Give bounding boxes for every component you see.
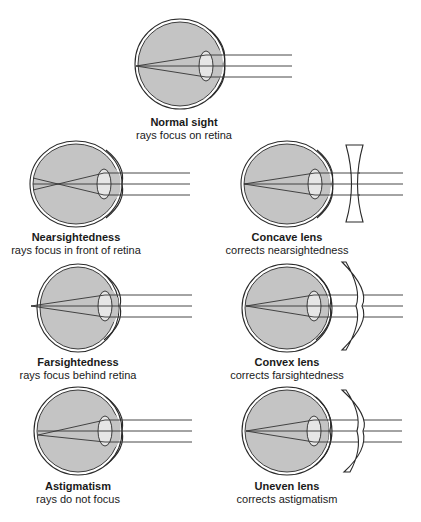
caption-concave-lens: Concave lens corrects nearsightedness — [187, 231, 387, 257]
caption-astigmatism: Astigmatism rays do not focus — [0, 480, 178, 506]
eye-nearsightedness — [30, 141, 190, 227]
caption-subtitle: corrects nearsightedness — [187, 244, 387, 257]
eye-farsightedness — [31, 264, 192, 352]
caption-title: Convex lens — [187, 356, 387, 369]
caption-title: Nearsightedness — [0, 231, 176, 244]
caption-subtitle: corrects astigmatism — [187, 493, 387, 506]
caption-subtitle: rays focus on retina — [84, 129, 284, 142]
vision-diagram — [0, 0, 421, 522]
eye-astigmatism — [34, 387, 192, 475]
caption-farsightedness: Farsightedness rays focus behind retina — [0, 356, 178, 382]
caption-title: Astigmatism — [0, 480, 178, 493]
caption-convex-lens: Convex lens corrects farsightedness — [187, 356, 387, 382]
caption-subtitle: rays focus in front of retina — [0, 244, 176, 257]
eye-concave-lens — [241, 141, 403, 227]
caption-subtitle: corrects farsightedness — [187, 369, 387, 382]
eye-uneven-lens — [242, 387, 402, 475]
eye-normal-sight — [135, 19, 292, 109]
caption-nearsightedness: Nearsightedness rays focus in front of r… — [0, 231, 176, 257]
caption-subtitle: rays do not focus — [0, 493, 178, 506]
caption-subtitle: rays focus behind retina — [0, 369, 178, 382]
caption-title: Uneven lens — [187, 480, 387, 493]
caption-uneven-lens: Uneven lens corrects astigmatism — [187, 480, 387, 506]
caption-title: Normal sight — [84, 116, 284, 129]
caption-title: Concave lens — [187, 231, 387, 244]
caption-normal-sight: Normal sight rays focus on retina — [84, 116, 284, 142]
eye-convex-lens — [242, 262, 403, 352]
caption-title: Farsightedness — [0, 356, 178, 369]
concave-glass-lens — [346, 145, 363, 222]
